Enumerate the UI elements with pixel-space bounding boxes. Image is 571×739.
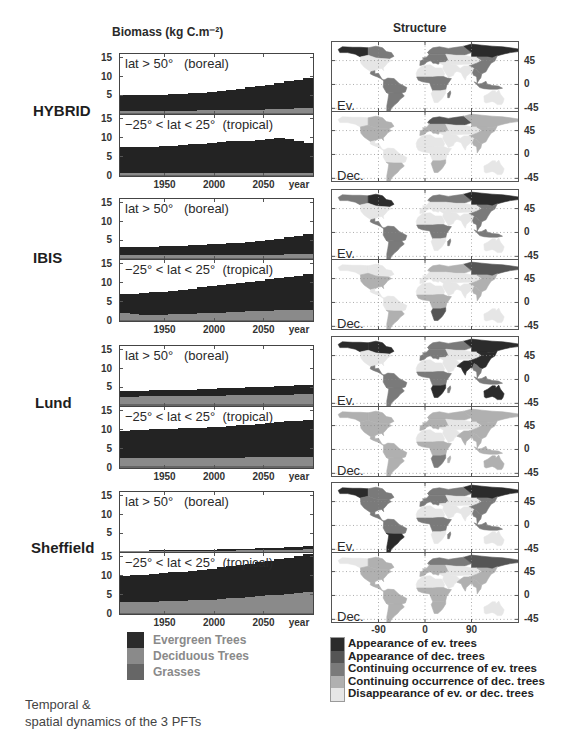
bar-segment xyxy=(168,94,178,111)
bar-segment xyxy=(226,395,236,404)
map-region-indonesia xyxy=(474,229,502,237)
bar-segment xyxy=(294,556,304,593)
bar-segment xyxy=(197,600,207,613)
panel-label-boreal: lat > 50° (boreal) xyxy=(125,56,229,71)
bar-segment xyxy=(178,145,188,173)
legend-swatch xyxy=(331,663,344,676)
bar-segment xyxy=(284,109,294,113)
map-region-madagascar xyxy=(448,239,451,246)
latitude-tick-label: -45 xyxy=(524,320,538,332)
x-tick-label: 1950 xyxy=(145,617,185,629)
bar-segment xyxy=(217,549,227,550)
model-block-lund: Lund lat > 50° (boreal) 15105 −25° < lat… xyxy=(0,345,330,495)
y-tick-label: 15 xyxy=(101,551,112,563)
map-region-south-am-n xyxy=(383,589,407,604)
bar-segment xyxy=(168,396,178,404)
bar-segment xyxy=(120,313,130,319)
bar-segment xyxy=(226,598,236,612)
bar-segment xyxy=(294,310,304,320)
bar-segment xyxy=(236,89,246,110)
model-label: HYBRID xyxy=(33,102,91,120)
bar-segment xyxy=(188,144,198,173)
bar-segment xyxy=(265,240,275,255)
map-deciduous: Dec. 450-45 xyxy=(331,259,519,330)
y-tick-label: 10 xyxy=(101,216,112,228)
x-tick-label: 2000 xyxy=(194,471,234,483)
y-tick-label: 5 xyxy=(106,589,112,601)
x-tick-label: 2000 xyxy=(194,324,234,336)
map-region-africa-s xyxy=(431,531,446,544)
x-tick-label: 2000 xyxy=(194,179,234,191)
map-region-na-boreal-w xyxy=(338,558,368,568)
biomass-chart-tropical: −25° < lat < 25° (tropical) 195020002050… xyxy=(119,552,314,615)
map-region-australia xyxy=(484,90,504,104)
bar-segment xyxy=(303,420,313,457)
y-tick-label: 5 xyxy=(106,527,112,539)
bar-segment xyxy=(294,173,304,175)
bar-segment xyxy=(120,458,130,466)
bar-segment xyxy=(207,466,217,468)
bar-segment xyxy=(168,429,178,459)
bar-segment xyxy=(294,421,304,457)
x-tick-label: 2050 xyxy=(244,179,284,191)
bar-segment xyxy=(197,144,207,173)
vegetation-map xyxy=(332,337,518,406)
y-tick-label: 10 xyxy=(101,132,112,144)
bar-segment xyxy=(188,571,198,600)
y-tick-label: 15 xyxy=(101,405,112,417)
map-region-africa-s xyxy=(431,385,446,398)
map-region-central-am xyxy=(370,141,385,151)
legend-label: Evergreen Trees xyxy=(153,632,246,648)
bar-segment xyxy=(294,254,304,258)
bar-segment xyxy=(245,425,255,458)
legend-swatch xyxy=(331,638,344,651)
map-region-australia xyxy=(484,160,504,174)
map-region-eurasia-boreal-e xyxy=(464,262,518,276)
bar-segment xyxy=(197,613,207,614)
map-region-south-am-n xyxy=(383,78,407,93)
bar-segment xyxy=(284,254,294,258)
bar-segment xyxy=(255,424,265,458)
bar-segment xyxy=(236,598,246,613)
x-tick-label: 2000 xyxy=(194,617,234,629)
bar-segment xyxy=(236,613,246,614)
latitude-tick-label: 45 xyxy=(524,273,535,285)
bar-segment xyxy=(178,428,188,458)
bar-segment xyxy=(265,175,275,176)
bar-segment xyxy=(207,550,217,551)
bar-segment xyxy=(294,276,304,310)
bar-segment xyxy=(149,613,159,614)
bar-segment xyxy=(207,175,217,176)
panel-label-boreal: lat > 50° (boreal) xyxy=(125,348,229,363)
bar-segment xyxy=(188,93,198,110)
bar-segment xyxy=(274,457,284,466)
map-region-australia xyxy=(484,455,504,469)
legend-swatch xyxy=(127,648,144,664)
bar-segment xyxy=(207,396,217,405)
bar-segment xyxy=(130,613,140,614)
y-tick-label: 15 xyxy=(101,490,112,502)
bar-segment xyxy=(139,575,149,602)
bar-segment xyxy=(284,81,294,108)
bar-segment xyxy=(207,173,217,175)
map-label-dec: Dec. xyxy=(337,168,364,183)
bar-segment xyxy=(197,173,207,175)
bar-segment xyxy=(294,141,304,173)
bar-segment xyxy=(139,175,149,176)
bar-segment xyxy=(168,255,178,258)
bar-segment xyxy=(245,173,255,175)
bar-segment xyxy=(188,396,198,404)
structure-maps-lund: Ev. 450-45 Dec. 450-45 xyxy=(331,336,571,486)
bar-segment xyxy=(178,314,188,320)
map-label-dec: Dec. xyxy=(337,316,364,331)
bar-segment xyxy=(197,93,207,111)
bar-segment xyxy=(226,175,236,176)
bar-segment xyxy=(245,110,255,113)
bar-segment xyxy=(217,466,227,468)
x-axis-label: year xyxy=(279,179,319,191)
bar-segment xyxy=(159,429,169,458)
bar-segment xyxy=(139,247,149,256)
bar-segment xyxy=(149,292,159,314)
bar-segment xyxy=(178,173,188,175)
y-tick-label: 10 xyxy=(101,509,112,521)
